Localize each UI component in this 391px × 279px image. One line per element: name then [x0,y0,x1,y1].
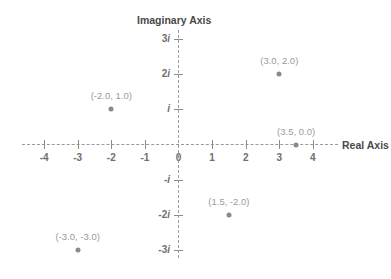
y-tick-mark [174,109,183,110]
y-tick-label: -i [144,174,170,185]
x-tick-label: -2 [99,152,123,163]
y-tick-label: -2i [144,209,170,220]
data-point [75,248,80,253]
data-point-label: (3.0, 2.0) [260,55,298,66]
data-point-label: (-3.0, -3.0) [56,231,100,242]
y-tick-label: 2i [144,68,170,79]
data-point [109,107,114,112]
y-tick-mark [174,74,183,75]
data-point-label: (1.5, -2.0) [208,196,249,207]
y-tick-label: -3i [144,244,170,255]
x-tick-label: 3 [267,152,291,163]
y-tick-label: i [144,103,170,114]
x-tick-label: -4 [32,152,56,163]
y-tick-mark [174,39,183,40]
data-point [277,72,282,77]
imaginary-axis-line [178,30,179,258]
x-tick-mark [44,140,45,149]
real-axis-title: Real Axis [342,139,389,151]
complex-plane-plot: Imaginary Axis Real Axis -4-3-2-101234 3… [0,0,391,279]
x-tick-mark [145,140,146,149]
y-tick-label: 3i [144,33,170,44]
x-tick-mark [279,140,280,149]
imaginary-axis-title: Imaginary Axis [137,14,211,26]
x-tick-mark [313,140,314,149]
x-tick-label: 2 [234,152,258,163]
x-tick-mark [246,140,247,149]
x-tick-label: -3 [66,152,90,163]
y-tick-mark [174,180,183,181]
x-tick-mark [212,140,213,149]
x-tick-mark [111,140,112,149]
x-tick-label: 1 [200,152,224,163]
data-point-label: (3.5, 0.0) [277,126,315,137]
data-point-label: (-2.0, 1.0) [91,90,132,101]
x-tick-label: -1 [133,152,157,163]
x-tick-label: 4 [301,152,325,163]
real-axis-line [22,144,338,145]
y-tick-mark [174,215,183,216]
data-point [226,212,231,217]
y-tick-mark [174,250,183,251]
x-tick-mark [78,140,79,149]
x-tick-label: 0 [167,152,191,163]
data-point [294,142,299,147]
